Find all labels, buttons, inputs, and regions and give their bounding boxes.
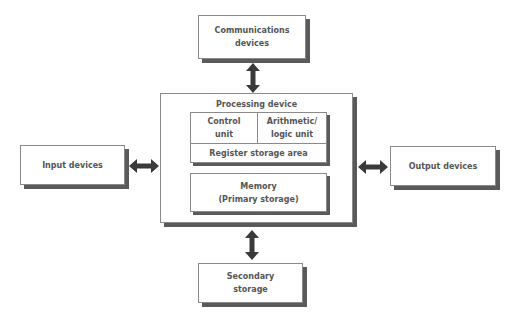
secondary-storage-label: Secondary storage	[199, 270, 302, 296]
communications-devices-label: Communications devices	[199, 24, 305, 50]
alu-label: Arithmetic/ logic unit	[267, 115, 317, 141]
register-storage-cell: Register storage area	[191, 144, 326, 162]
communications-devices-box: Communications devices	[198, 15, 306, 59]
output-devices-box: Output devices	[390, 146, 496, 186]
diagram-canvas: Communications devices Processing device…	[0, 0, 518, 322]
control-unit-cell: Control unit	[191, 113, 258, 144]
input-devices-box: Input devices	[20, 145, 125, 185]
bidirectional-arrow-icon	[245, 230, 259, 260]
bidirectional-arrow-icon	[129, 159, 159, 173]
memory-label: Memory (Primary storage)	[191, 180, 326, 206]
control-unit-label: Control unit	[207, 115, 240, 141]
cpu-block: Control unit Arithmetic/ logic unit Regi…	[190, 112, 327, 163]
input-devices-label: Input devices	[21, 159, 124, 172]
register-storage-label: Register storage area	[209, 147, 307, 160]
bidirectional-arrow-icon	[246, 63, 260, 93]
processing-device-label: Processing device	[161, 98, 352, 111]
memory-block: Memory (Primary storage)	[190, 173, 327, 212]
alu-cell: Arithmetic/ logic unit	[258, 113, 326, 144]
secondary-storage-box: Secondary storage	[198, 263, 303, 303]
processing-device-box: Processing device Control unit Arithmeti…	[160, 93, 353, 223]
output-devices-label: Output devices	[391, 160, 495, 173]
bidirectional-arrow-icon	[358, 160, 388, 174]
